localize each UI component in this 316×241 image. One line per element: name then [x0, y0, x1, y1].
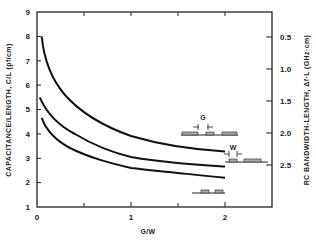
svg-text:4: 4: [26, 130, 31, 139]
bottom-x-ticks: [84, 202, 225, 207]
inset-bottom-strips: [192, 190, 225, 193]
svg-text:6: 6: [26, 81, 31, 90]
svg-text:1: 1: [26, 203, 31, 212]
svg-text:2: 2: [223, 213, 228, 222]
svg-text:2.0: 2.0: [280, 129, 292, 138]
svg-text:G: G: [200, 114, 206, 121]
inset-middle-strips: W: [224, 144, 268, 162]
svg-text:1: 1: [129, 213, 134, 222]
svg-text:0: 0: [35, 213, 40, 222]
svg-text:W: W: [230, 144, 237, 151]
svg-text:5: 5: [26, 105, 31, 114]
svg-text:8: 8: [26, 32, 31, 41]
svg-text:2: 2: [26, 178, 31, 187]
right-y-tick-labels: 0.5 1.0 1.5 2.0 2.5: [280, 33, 292, 170]
plot-frame: [37, 12, 272, 207]
y-axis-label: CAPACITANCE/LENGTH, C/L (pf/cm): [5, 43, 13, 176]
svg-text:1.5: 1.5: [280, 97, 292, 106]
svg-text:1.0: 1.0: [280, 65, 292, 74]
x-tick-labels: 0 1 2: [35, 213, 228, 222]
y2-axis-label: RC BANDWIDTH-LENGTH, Δf·L (GHz·cm): [303, 35, 311, 186]
svg-text:7: 7: [26, 57, 31, 66]
svg-text:0.5: 0.5: [280, 33, 292, 42]
x-axis-label: G/W: [140, 228, 155, 235]
left-y-tick-labels: 9 8 7 6 5 4 3 2 1: [26, 8, 31, 212]
inset-top-strips: G: [181, 114, 238, 135]
right-y-ticks: [266, 37, 272, 165]
svg-text:2.5: 2.5: [280, 161, 292, 170]
svg-text:9: 9: [26, 8, 31, 17]
svg-text:3: 3: [26, 154, 31, 163]
chart: 9 8 7 6 5 4 3 2 1 0 1 2 G/W CAPACITANCE/…: [0, 0, 316, 241]
